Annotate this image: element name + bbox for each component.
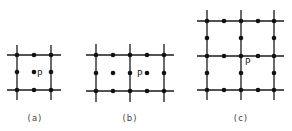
- interior-point: [111, 71, 116, 76]
- panel-caption: (b): [122, 113, 137, 123]
- grid-node: [205, 88, 210, 93]
- grid-node: [94, 71, 99, 76]
- grid-node: [49, 53, 54, 58]
- grid-node: [162, 71, 167, 76]
- point-p-label: P: [37, 69, 43, 79]
- grid-node: [272, 88, 277, 93]
- grid-node: [32, 88, 37, 93]
- panel-c: P(c): [197, 10, 284, 123]
- panel-a: P(a): [7, 45, 61, 123]
- grid-node: [239, 19, 244, 24]
- grid-node: [222, 54, 227, 59]
- grid-node: [94, 53, 99, 58]
- grid-node: [94, 89, 99, 94]
- grid-node: [239, 71, 244, 76]
- grid-node: [128, 71, 133, 76]
- grid-node: [145, 89, 150, 94]
- grid-node: [205, 19, 210, 24]
- grid-node: [15, 70, 20, 75]
- grid-node: [49, 70, 54, 75]
- grid-node: [128, 89, 133, 94]
- grid-node: [15, 88, 20, 93]
- grid-node: [145, 53, 150, 58]
- grid-node: [205, 36, 210, 41]
- grid-node: [256, 19, 261, 24]
- panel-caption: (c): [234, 113, 248, 123]
- grid-node: [222, 88, 227, 93]
- grid-node: [272, 54, 277, 59]
- grid-node: [111, 53, 116, 58]
- grid-node: [272, 36, 277, 41]
- point-p-label: P: [245, 57, 251, 67]
- grid-node: [162, 89, 167, 94]
- grid-node: [272, 19, 277, 24]
- stencil-grid-diagram: P(a) P(b) P(c): [0, 0, 292, 131]
- panel-caption: (a): [28, 113, 43, 123]
- grid-node: [256, 54, 261, 59]
- interior-point: [145, 71, 150, 76]
- grid-node: [222, 19, 227, 24]
- grid-node: [239, 54, 244, 59]
- grid-node: [15, 53, 20, 58]
- interior-point: [32, 70, 37, 75]
- grid-node: [205, 71, 210, 76]
- grid-node: [239, 88, 244, 93]
- point-p-label: P: [137, 69, 143, 79]
- panel-b: P(b): [86, 44, 174, 123]
- grid-node: [162, 53, 167, 58]
- grid-node: [272, 71, 277, 76]
- grid-node: [49, 88, 54, 93]
- grid-node: [128, 53, 133, 58]
- grid-node: [111, 89, 116, 94]
- grid-node: [256, 88, 261, 93]
- grid-node: [32, 53, 37, 58]
- grid-node: [205, 54, 210, 59]
- grid-node: [239, 36, 244, 41]
